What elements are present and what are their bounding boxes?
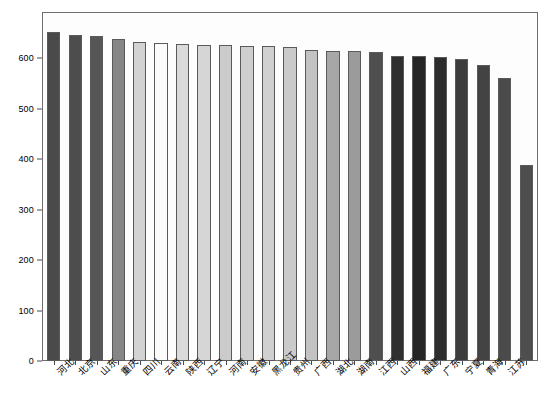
bar <box>219 45 232 361</box>
y-axis: 0100200300400500600 <box>0 0 42 400</box>
y-axis-tick-mark <box>37 209 42 210</box>
bar <box>369 52 382 361</box>
bar <box>283 47 296 361</box>
bar <box>520 165 533 361</box>
bar <box>326 51 339 361</box>
bar-chart: 0100200300400500600 河北北京山东重庆四川云南陕西辽宁河南安徽… <box>0 0 551 400</box>
bar <box>154 43 167 361</box>
bar <box>133 42 146 361</box>
bar <box>412 56 425 361</box>
bar <box>434 57 447 361</box>
y-axis-tick-label: 400 <box>18 154 34 164</box>
y-axis-tick-label: 600 <box>18 53 34 63</box>
x-axis: 河北北京山东重庆四川云南陕西辽宁河南安徽黑龙江贵州广西湖北湖南江西山西福建广东宁… <box>43 361 537 400</box>
y-axis-tick-mark <box>37 260 42 261</box>
y-axis-tick-label: 500 <box>18 104 34 114</box>
bar <box>112 39 125 361</box>
bar <box>262 46 275 361</box>
y-axis-tick-label: 300 <box>18 205 34 215</box>
y-axis-tick-mark <box>37 159 42 160</box>
bar <box>455 59 468 361</box>
bar <box>305 50 318 361</box>
y-axis-tick-mark <box>37 108 42 109</box>
bar <box>498 78 511 361</box>
bar <box>348 51 361 361</box>
x-axis-tick-mark <box>54 361 55 365</box>
y-axis-tick-mark <box>37 361 42 362</box>
y-axis-tick-label: 0 <box>29 356 34 366</box>
bar <box>69 35 82 361</box>
bar <box>197 45 210 361</box>
y-axis-tick-label: 200 <box>18 255 34 265</box>
bar <box>477 65 490 361</box>
y-axis-tick-mark <box>37 310 42 311</box>
bar <box>176 44 189 361</box>
bar <box>47 32 60 361</box>
bars-container <box>43 13 537 361</box>
y-axis-tick-mark <box>37 58 42 59</box>
bar <box>240 46 253 361</box>
bar <box>90 36 103 361</box>
y-axis-tick-label: 100 <box>18 306 34 316</box>
bar <box>391 56 404 361</box>
